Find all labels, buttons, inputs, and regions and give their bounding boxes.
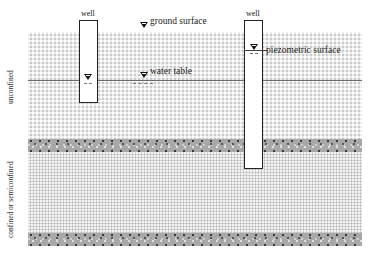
unconfined-label: unconfined	[6, 70, 15, 104]
well-left-label: well	[81, 10, 95, 18]
piezometric-triangle-icon	[250, 44, 258, 50]
piezometric-surface-label: piezometric surface	[266, 46, 341, 56]
aquifer-diagram: well well piezometric surface ground sur…	[0, 0, 377, 260]
piezometric-level-line	[244, 50, 268, 51]
water-table-triangle-icon	[140, 72, 148, 78]
ground-surface-triangle-icon	[140, 22, 148, 28]
upper-confining-layer	[28, 139, 362, 152]
piezometric-ticks	[250, 53, 258, 55]
lower-confining-layer	[28, 233, 362, 246]
ground-surface-label: ground surface	[150, 17, 207, 27]
well-unconfined	[79, 20, 98, 103]
confined-label: confined or semiconfined	[6, 161, 15, 238]
water-table-label: water table	[150, 67, 192, 77]
well-confined	[244, 20, 263, 169]
water-level-triangle-icon	[84, 74, 92, 80]
well-right-label: well	[246, 10, 260, 18]
water-table-ticks	[133, 83, 153, 85]
confined-aquifer-layer	[28, 152, 362, 233]
water-level-ticks	[84, 83, 92, 85]
